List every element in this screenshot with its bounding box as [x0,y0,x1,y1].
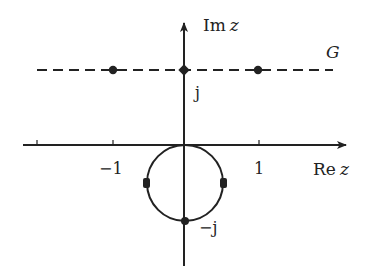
point-one-plus-j [254,66,262,74]
tick-label-one: 1 [254,159,264,178]
point-minus-j [181,217,189,225]
label-minus-j: −j [199,218,217,237]
complex-plane-diagram: Imz Rez G j −j −1 1 [0,0,369,278]
point-minus-one-plus-j [109,66,117,74]
imag-axis-label: Imz [203,15,240,35]
tick-label-minus-one: −1 [99,159,123,178]
label-j: j [193,83,200,102]
line-g-label: G [326,42,340,62]
point-j [178,64,189,75]
point-circle-right [220,178,227,188]
point-circle-left [143,178,150,188]
real-axis-label: Rez [313,159,350,179]
